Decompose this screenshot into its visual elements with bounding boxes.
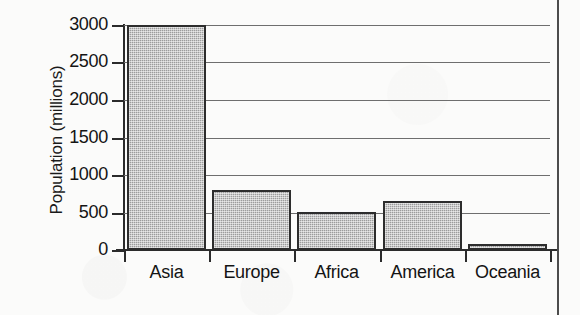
- x-label-europe: Europe: [209, 262, 294, 283]
- x-tick-3: [380, 250, 382, 262]
- y-tick-label-3000: 3000: [34, 14, 108, 35]
- y-tick-2000: [112, 100, 124, 102]
- y-tick-500: [112, 213, 124, 215]
- x-tick-4: [465, 250, 467, 262]
- bar-africa: [297, 212, 376, 250]
- x-label-oceania: Oceania: [465, 262, 550, 283]
- y-tick-label-0: 0: [34, 239, 108, 260]
- bar-europe: [212, 190, 291, 250]
- y-tick-2500: [112, 62, 124, 64]
- y-tick-label-2000: 2000: [34, 89, 108, 110]
- x-tick-5: [550, 250, 552, 262]
- y-tick-3000: [112, 25, 124, 27]
- page-border-right: [557, 0, 559, 315]
- bar-america: [383, 201, 462, 250]
- y-tick-label-1000: 1000: [34, 164, 108, 185]
- y-tick-0: [112, 250, 124, 252]
- x-tick-0: [124, 250, 126, 262]
- plot-area: [124, 25, 550, 250]
- x-tick-2: [294, 250, 296, 262]
- y-tick-label-500: 500: [34, 202, 108, 223]
- x-label-america: America: [380, 262, 465, 283]
- x-label-africa: Africa: [294, 262, 379, 283]
- y-tick-1000: [112, 175, 124, 177]
- bar-oceania: [468, 244, 547, 250]
- x-label-asia: Asia: [124, 262, 209, 283]
- y-tick-1500: [112, 138, 124, 140]
- bar-asia: [127, 25, 206, 250]
- x-tick-1: [209, 250, 211, 262]
- y-tick-label-2500: 2500: [34, 51, 108, 72]
- chart-page: Population (millions) 050010001500200025…: [0, 0, 580, 315]
- y-tick-label-1500: 1500: [34, 127, 108, 148]
